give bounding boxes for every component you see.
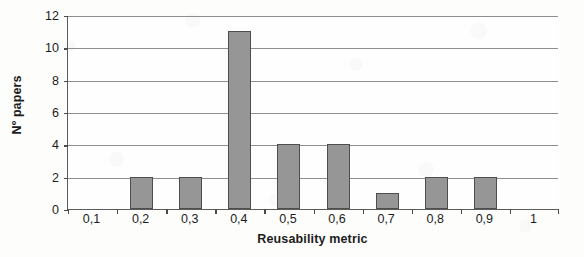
x-tick-label: 0,4 [230, 212, 247, 226]
y-tick-label: 6 [30, 106, 64, 120]
plot-area [67, 16, 558, 210]
bar [228, 31, 251, 209]
y-tick-label: 12 [30, 9, 64, 23]
y-axis-title: Nº papers [4, 0, 30, 210]
x-tick-label: 0,9 [476, 212, 493, 226]
bar [277, 144, 300, 209]
bar [474, 177, 497, 209]
y-tick-label: 2 [30, 171, 64, 185]
y-tick-label: 8 [30, 74, 64, 88]
y-axis-title-label: Nº papers [10, 76, 24, 135]
x-tick-label: 0,1 [83, 212, 100, 226]
x-axis-title: Reusability metric [67, 232, 558, 246]
y-tick-label: 4 [30, 138, 64, 152]
bar [376, 193, 399, 209]
reusability-metric-bar-chart: Nº papers 024681012 0,10,20,30,40,50,60,… [0, 0, 584, 257]
x-tick-label: 0,7 [377, 212, 394, 226]
bar [130, 177, 153, 209]
x-axis-tick-labels: 0,10,20,30,40,50,60,70,80,91 [67, 212, 558, 232]
x-tick-label: 0,2 [132, 212, 149, 226]
x-tick-label: 1 [530, 212, 537, 226]
bar [425, 177, 448, 209]
bar [327, 144, 350, 209]
bar [179, 177, 202, 209]
x-tick-label: 0,6 [328, 212, 345, 226]
x-tick-label: 0,5 [279, 212, 296, 226]
y-tick-label: 0 [30, 203, 64, 217]
bar-series [68, 16, 558, 209]
y-tick-label: 10 [30, 41, 64, 55]
x-tick-label: 0,3 [181, 212, 198, 226]
x-tick-label: 0,8 [427, 212, 444, 226]
y-axis-tick-labels: 024681012 [30, 16, 64, 210]
